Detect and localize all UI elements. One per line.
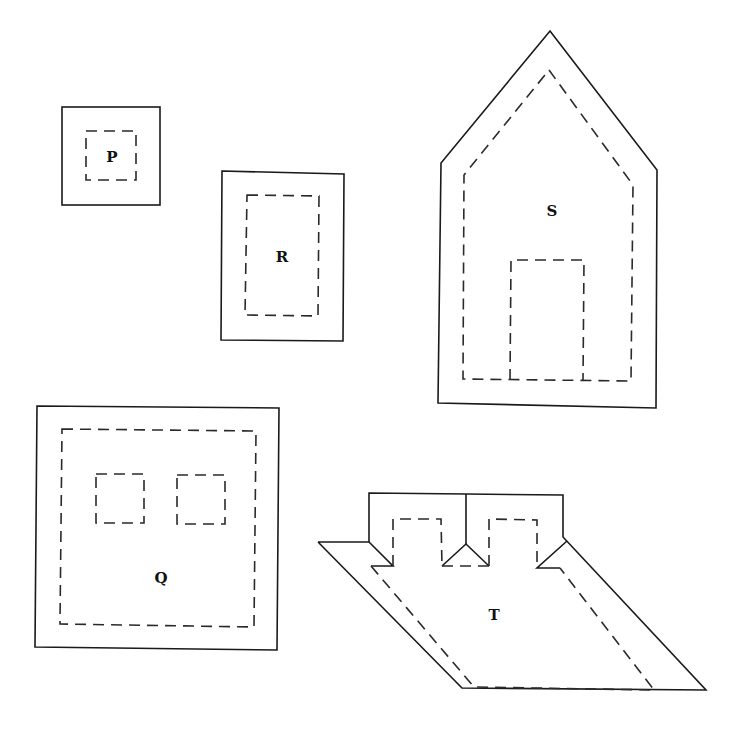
shape-t-right-tab-cut — [537, 541, 567, 568]
shape-t-label: T — [488, 606, 500, 624]
shape-t-middle-tab-cut — [442, 544, 489, 566]
shape-s-label: S — [547, 202, 558, 220]
shape-s: S — [438, 31, 657, 408]
shape-t-base-fold-line — [371, 566, 654, 690]
shape-s-fold-line — [463, 70, 633, 381]
shape-q-outer-outline — [35, 406, 279, 650]
shape-t-left-tab-fold-line — [393, 519, 442, 566]
shape-q-window-right — [177, 475, 225, 524]
shape-p-label: P — [106, 148, 117, 166]
shape-t-right-tab-fold-line — [489, 519, 537, 568]
shape-q: Q — [35, 406, 279, 650]
shape-t: T — [318, 493, 706, 690]
shape-q-fold-line — [60, 429, 256, 627]
shape-q-window-left — [96, 474, 144, 523]
shapes-canvas: P R S Q T — [0, 0, 737, 736]
shape-q-label: Q — [154, 569, 167, 587]
shape-t-outer-outline — [318, 493, 706, 690]
shape-s-door-fold-line — [510, 260, 584, 381]
shape-r: R — [221, 171, 344, 341]
shape-p: P — [62, 107, 160, 205]
shape-r-label: R — [276, 248, 289, 266]
shape-t-left-tab-cut — [369, 542, 393, 566]
